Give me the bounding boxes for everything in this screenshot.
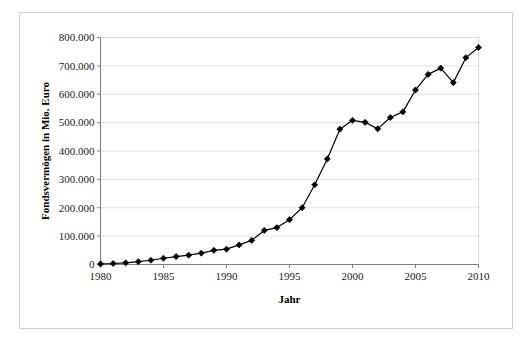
- y-axis-tick-label: 800.000: [59, 31, 95, 43]
- x-axis-tick-label: 2010: [468, 270, 491, 282]
- y-axis-tick-label: 200.000: [59, 202, 95, 214]
- y-axis-tick-label: 400.000: [59, 145, 95, 157]
- y-axis-tick-label: 0: [89, 258, 95, 270]
- y-axis: 0100.000200.000300.000400.000500.000600.…: [59, 31, 101, 270]
- chart-figure: 0100.000200.000300.000400.000500.000600.…: [0, 0, 532, 343]
- y-axis-tick-label: 300.000: [59, 173, 95, 185]
- x-axis-tick-label: 1990: [216, 270, 239, 282]
- x-axis-tick-label: 1980: [90, 270, 113, 282]
- y-axis-title: Fondsvermögen in Mio. Euro: [39, 82, 51, 220]
- line-chart: 0100.000200.000300.000400.000500.000600.…: [0, 0, 532, 343]
- y-axis-tick-label: 600.000: [59, 88, 95, 100]
- x-axis-tick-label: 1985: [153, 270, 176, 282]
- x-axis-tick-label: 2000: [342, 270, 365, 282]
- x-axis-title: Jahr: [279, 293, 301, 305]
- x-axis-tick-label: 2005: [405, 270, 428, 282]
- x-axis-tick-label: 1995: [279, 270, 302, 282]
- y-axis-tick-label: 500.000: [59, 116, 95, 128]
- x-axis: 1980198519901995200020052010: [90, 265, 491, 283]
- y-axis-tick-label: 100.000: [59, 230, 95, 242]
- y-axis-tick-label: 700.000: [59, 60, 95, 72]
